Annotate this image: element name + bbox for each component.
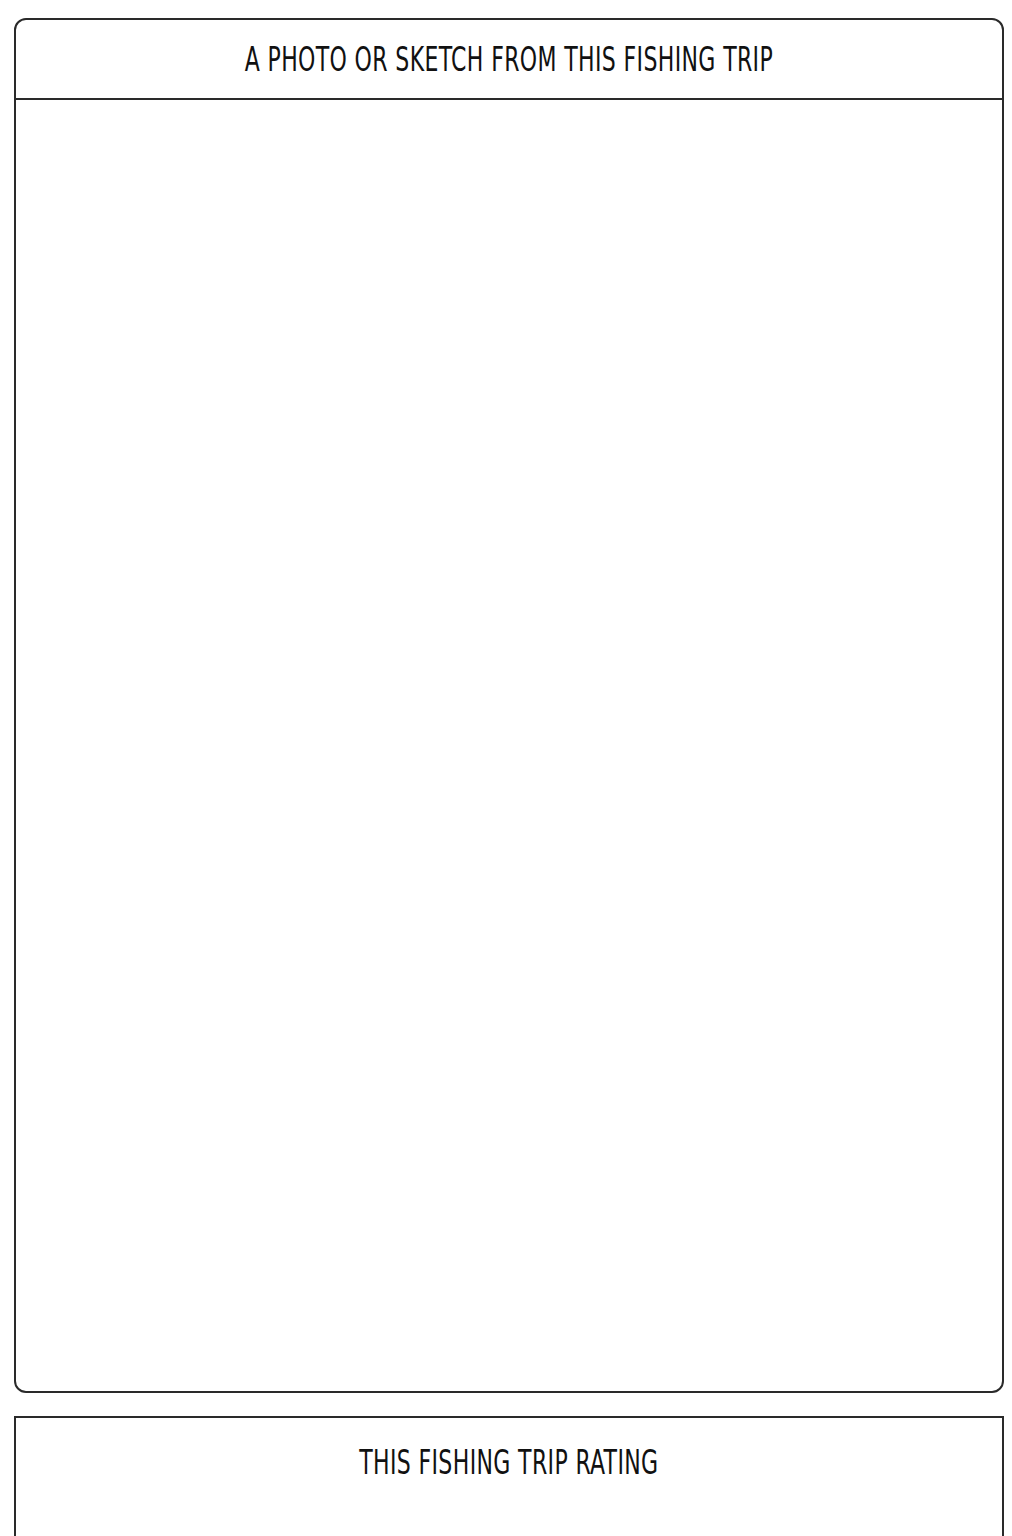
photo-sketch-area — [16, 100, 1002, 1391]
photo-sketch-box: A PHOTO OR SKETCH FROM THIS FISHING TRIP — [14, 18, 1004, 1393]
photo-section-title: A PHOTO OR SKETCH FROM THIS FISHING TRIP — [245, 39, 773, 79]
trip-rating-box: THIS FISHING TRIP RATING — [14, 1416, 1004, 1536]
rating-section-title: THIS FISHING TRIP RATING — [359, 1442, 658, 1482]
photo-section-header: A PHOTO OR SKETCH FROM THIS FISHING TRIP — [16, 20, 1002, 100]
rating-section-header: THIS FISHING TRIP RATING — [16, 1418, 1002, 1506]
